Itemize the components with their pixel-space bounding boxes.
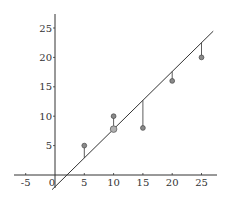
data-point xyxy=(199,55,204,60)
regression-line xyxy=(52,31,213,189)
data-point xyxy=(141,126,146,131)
x-tick-label: 0 xyxy=(49,177,55,188)
x-tick-label: 10 xyxy=(107,177,120,188)
x-tick-label: 5 xyxy=(81,177,87,188)
axis-ticks: -50510152025510152025 xyxy=(21,23,208,189)
y-tick-label: 20 xyxy=(39,52,52,63)
y-tick-label: 15 xyxy=(39,81,52,92)
y-tick-label: 10 xyxy=(39,111,52,122)
scatter-chart: -50510152025510152025 xyxy=(0,0,231,204)
data-point xyxy=(82,143,87,148)
highlighted-point xyxy=(110,126,117,133)
data-point xyxy=(111,114,116,119)
data-point xyxy=(170,79,175,84)
fit-line xyxy=(52,31,213,189)
x-tick-label: -5 xyxy=(21,177,31,188)
x-tick-label: 15 xyxy=(137,177,150,188)
x-tick-label: 20 xyxy=(166,177,179,188)
y-tick-label: 25 xyxy=(39,23,52,34)
axes xyxy=(14,14,217,188)
x-tick-label: 25 xyxy=(195,177,208,188)
y-tick-label: 5 xyxy=(46,140,52,151)
